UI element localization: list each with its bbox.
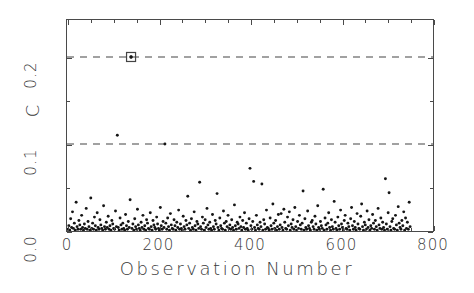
y-tick-right bbox=[430, 101, 433, 102]
x-tick-label: 800 bbox=[417, 236, 449, 254]
x-tick bbox=[182, 228, 183, 231]
x-tick bbox=[320, 228, 321, 231]
y-tick bbox=[67, 145, 72, 146]
x-tick-top bbox=[228, 20, 229, 23]
x-tick bbox=[274, 228, 275, 231]
x-tick-label: 600 bbox=[325, 236, 357, 254]
x-tick bbox=[137, 228, 138, 231]
y-tick-right bbox=[428, 58, 433, 59]
x-tick bbox=[160, 226, 161, 231]
scatter-plot-figure: 0200400600800 0.00.10.2 C Observation Nu… bbox=[0, 0, 474, 293]
x-tick bbox=[251, 226, 252, 231]
y-tick-label: 0.1 bbox=[22, 148, 40, 175]
x-tick-top bbox=[205, 20, 206, 23]
x-tick-top bbox=[68, 20, 69, 25]
plot-frame bbox=[66, 19, 434, 232]
x-tick bbox=[388, 228, 389, 231]
x-tick-top bbox=[320, 20, 321, 23]
x-tick bbox=[343, 226, 344, 231]
x-tick bbox=[434, 226, 435, 231]
x-tick-top bbox=[411, 20, 412, 23]
x-tick-label: 400 bbox=[234, 236, 266, 254]
x-tick-top bbox=[91, 20, 92, 23]
scatter-points-layer bbox=[67, 20, 433, 231]
y-tick-right bbox=[428, 145, 433, 146]
x-tick-top bbox=[114, 20, 115, 23]
y-tick-right bbox=[430, 188, 433, 189]
y-tick bbox=[67, 188, 70, 189]
y-tick-right bbox=[428, 232, 433, 233]
x-tick-top bbox=[251, 20, 252, 25]
x-tick-top bbox=[297, 20, 298, 23]
y-tick-label: 0.2 bbox=[22, 61, 40, 88]
x-tick-top bbox=[343, 20, 344, 25]
y-tick bbox=[67, 232, 72, 233]
x-tick bbox=[297, 228, 298, 231]
x-tick-top bbox=[182, 20, 183, 23]
x-tick bbox=[228, 228, 229, 231]
x-tick-top bbox=[365, 20, 366, 23]
y-tick bbox=[67, 101, 70, 102]
x-tick bbox=[205, 228, 206, 231]
plot-data-area bbox=[67, 20, 433, 231]
y-axis-title: C bbox=[22, 103, 43, 118]
x-axis-title: Observation Number bbox=[0, 258, 474, 279]
x-tick bbox=[68, 226, 69, 231]
x-tick bbox=[91, 228, 92, 231]
x-tick-top bbox=[160, 20, 161, 25]
x-tick-top bbox=[274, 20, 275, 23]
x-tick bbox=[411, 228, 412, 231]
x-tick-top bbox=[137, 20, 138, 23]
x-tick-label: 200 bbox=[142, 236, 174, 254]
x-tick-label: 0 bbox=[62, 236, 73, 254]
x-tick bbox=[365, 228, 366, 231]
x-tick bbox=[114, 228, 115, 231]
x-tick-top bbox=[434, 20, 435, 25]
x-tick-top bbox=[388, 20, 389, 23]
y-tick bbox=[67, 58, 72, 59]
